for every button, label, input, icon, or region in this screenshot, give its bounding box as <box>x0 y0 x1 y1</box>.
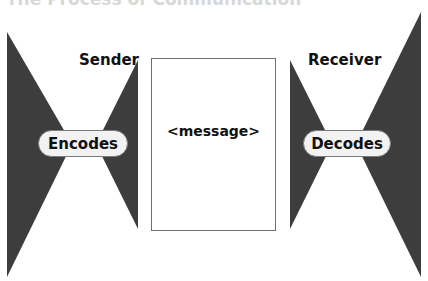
message-box: <message> <box>151 58 276 231</box>
message-label: <message> <box>167 123 260 139</box>
sender-label: Sender <box>79 51 139 69</box>
receiver-label: Receiver <box>308 51 381 69</box>
decodes-label: Decodes <box>311 135 383 153</box>
decodes-pill: Decodes <box>303 130 391 157</box>
encodes-label: Encodes <box>48 135 118 153</box>
encodes-pill: Encodes <box>38 130 128 157</box>
communication-process-diagram: The Process of Communication Sender Rece… <box>0 0 428 281</box>
